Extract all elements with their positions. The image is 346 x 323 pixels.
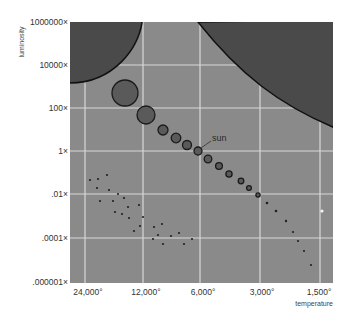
sun-label: sun xyxy=(212,133,227,143)
hr-diagram: sun 1000000× 10000× 100× 1× .01× .0001× … xyxy=(0,0,346,323)
isolated-star xyxy=(320,209,323,212)
y-tick: .01× xyxy=(51,189,68,199)
x-axis-label: temperature xyxy=(295,300,333,308)
x-axis-ticks: 24,000° 12,000° 6,000° 3,000° 1,500° xyxy=(73,287,331,297)
y-axis-ticks: 1000000× 10000× 100× 1× .01× .0001× .000… xyxy=(30,17,68,287)
y-tick: 10000× xyxy=(39,60,68,70)
x-tick: 12,000° xyxy=(131,287,160,297)
x-tick: 1,500° xyxy=(307,287,332,297)
y-tick: 1000000× xyxy=(30,17,68,27)
y-tick: .0001× xyxy=(42,233,68,243)
x-tick: 24,000° xyxy=(73,287,102,297)
x-tick: 3,000° xyxy=(250,287,275,297)
y-axis-label: luminosity xyxy=(18,26,26,58)
y-tick: 100× xyxy=(49,103,68,113)
sun-marker xyxy=(194,147,202,155)
y-tick: .000001× xyxy=(32,277,68,287)
y-tick: 1× xyxy=(58,146,68,156)
x-tick: 6,000° xyxy=(191,287,216,297)
